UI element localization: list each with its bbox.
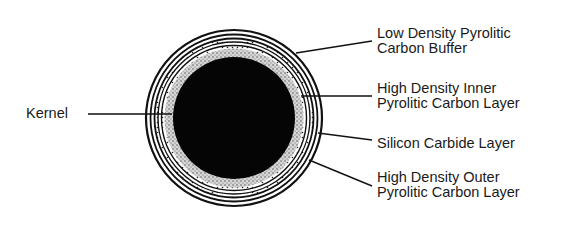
- label-kernel: Kernel: [26, 106, 68, 121]
- label-sic: Silicon Carbide Layer: [377, 136, 515, 151]
- label-outer-pyc: High Density Outer Pyrolitic Carbon Laye…: [377, 170, 520, 200]
- label-buffer: Low Density Pyrolitic Carbon Buffer: [377, 26, 511, 56]
- leader-line-outer-pyc: [309, 160, 372, 186]
- kernel-core: [173, 57, 295, 179]
- leader-line-sic: [318, 133, 372, 140]
- label-inner-pyc: High Density Inner Pyrolitic Carbon Laye…: [377, 81, 520, 111]
- leader-line-buffer: [296, 41, 372, 53]
